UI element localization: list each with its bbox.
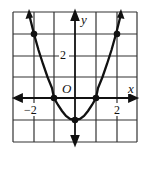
x-tick-2: 2 <box>114 103 120 117</box>
curve-left-arrow-icon <box>26 9 34 19</box>
origin-label: O <box>62 81 72 96</box>
parabola-graph: y x O 2 −2 2 <box>0 0 147 170</box>
x-axis-left-arrow-icon <box>14 95 22 102</box>
curve-right-arrow-icon <box>117 9 125 19</box>
x-tick-neg2: −2 <box>24 103 37 117</box>
y-tick-2: 2 <box>60 48 66 62</box>
y-axis-label: y <box>79 12 87 27</box>
y-axis-down-arrow-icon <box>72 136 79 145</box>
labels: y x O 2 −2 2 <box>23 12 136 117</box>
x-axis-label: x <box>127 81 134 96</box>
